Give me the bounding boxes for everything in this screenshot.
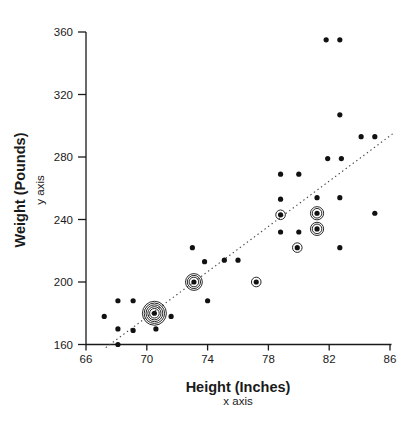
data-point xyxy=(324,37,329,42)
data-point-ringed xyxy=(254,279,259,284)
data-point-ringed xyxy=(278,212,283,217)
data-point xyxy=(115,298,120,303)
data-point xyxy=(115,342,120,347)
data-point xyxy=(205,298,210,303)
data-point xyxy=(169,314,174,319)
data-point xyxy=(153,326,158,331)
y-tick-label: 280 xyxy=(54,151,73,163)
trend-line xyxy=(106,134,393,348)
data-point xyxy=(296,229,301,234)
data-point-ringed xyxy=(295,245,300,250)
y-tick-label: 240 xyxy=(54,214,73,226)
data-point xyxy=(337,195,342,200)
scatter-plot-figure: 160200240280320360667074788286 Weight (P… xyxy=(0,0,417,424)
data-point xyxy=(325,156,330,161)
data-point xyxy=(222,258,227,263)
data-point xyxy=(372,211,377,216)
y-axis-title: Weight (Pounds) xyxy=(12,132,28,247)
data-point xyxy=(278,172,283,177)
y-tick-label: 360 xyxy=(54,26,73,38)
data-point xyxy=(337,245,342,250)
y-axis-subtitle: y axis xyxy=(34,175,46,205)
data-point-ringed xyxy=(314,211,319,216)
data-point xyxy=(296,172,301,177)
x-tick-label: 78 xyxy=(262,353,275,365)
y-tick-label: 200 xyxy=(54,276,73,288)
data-point xyxy=(278,197,283,202)
data-point xyxy=(115,326,120,331)
x-tick-label: 74 xyxy=(201,353,214,365)
y-tick-label: 320 xyxy=(54,89,73,101)
data-point xyxy=(131,298,136,303)
x-tick-label: 82 xyxy=(323,353,336,365)
scatter-plot: 160200240280320360667074788286 Weight (P… xyxy=(0,0,417,424)
data-point xyxy=(372,134,377,139)
data-point xyxy=(190,245,195,250)
data-point xyxy=(314,195,319,200)
plot-area: 160200240280320360667074788286 xyxy=(54,26,397,365)
data-point xyxy=(359,134,364,139)
x-tick-label: 86 xyxy=(384,353,397,365)
y-tick-label: 160 xyxy=(54,339,73,351)
x-tick-label: 70 xyxy=(140,353,153,365)
data-point xyxy=(102,314,107,319)
data-point xyxy=(337,37,342,42)
x-tick-label: 66 xyxy=(80,353,93,365)
data-point-ringed xyxy=(152,311,157,316)
data-point xyxy=(337,112,342,117)
x-axis-subtitle: x axis xyxy=(223,395,253,407)
data-point xyxy=(131,328,136,333)
data-point xyxy=(339,156,344,161)
data-point xyxy=(202,259,207,264)
data-point xyxy=(235,258,240,263)
data-point-ringed xyxy=(191,279,196,284)
data-point xyxy=(278,229,283,234)
data-point-ringed xyxy=(314,226,319,231)
x-axis-title: Height (Inches) xyxy=(186,379,291,395)
